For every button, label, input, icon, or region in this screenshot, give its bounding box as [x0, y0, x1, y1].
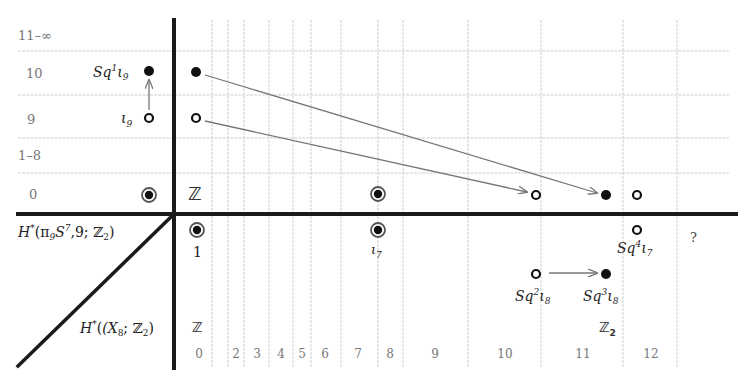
bottom-region-label: H*((X8; ℤ2) [80, 320, 154, 338]
col-label-8: 8 [386, 348, 394, 360]
label-sq2-iota8: Sq2ι8 [515, 288, 551, 306]
row-label-0: 0 [29, 188, 37, 201]
label-Z-fiber: ℤ [188, 185, 202, 203]
col-label-2: 2 [232, 348, 240, 360]
row-label-10: 10 [26, 67, 43, 80]
col-label-6: 6 [321, 348, 329, 360]
row-label-9: 9 [27, 113, 35, 126]
label-Z-base: ℤ [192, 320, 203, 334]
label-sq1-iota9: Sq1ι9 [93, 64, 129, 82]
label-Z2-base: ℤ2 [599, 320, 616, 338]
label-iota7: ι7 [371, 243, 382, 260]
col-label-11: 11 [575, 348, 590, 360]
top-region-label: H*(π9S7,9; ℤ2) [18, 224, 114, 242]
col-label-7: 7 [354, 348, 362, 360]
col-label-4: 4 [277, 348, 285, 360]
label-unknown: ? [690, 230, 697, 245]
label-sq3-iota8: Sq3ι8 [583, 288, 619, 306]
col-label-3: 3 [253, 348, 261, 360]
row-label-1-8: 1–8 [18, 149, 41, 162]
col-label-9: 9 [431, 348, 439, 360]
col-label-12: 12 [643, 348, 658, 360]
row-label-11-inf: 11–∞ [18, 29, 52, 42]
label-sq4-iota7: Sq4ι7 [617, 240, 653, 258]
label-iota9: ι9 [121, 111, 132, 129]
base-classes [190, 223, 641, 279]
col-label-5: 5 [298, 348, 306, 360]
spectral-sequence-diagram: 11–∞ 10 9 1–8 0 0 2 3 4 5 6 7 8 9 10 11 … [0, 0, 746, 380]
col-label-10: 10 [497, 348, 512, 360]
E2-page-classes [191, 67, 641, 201]
col-label-0: 0 [195, 348, 203, 360]
label-one: 1 [193, 245, 202, 259]
